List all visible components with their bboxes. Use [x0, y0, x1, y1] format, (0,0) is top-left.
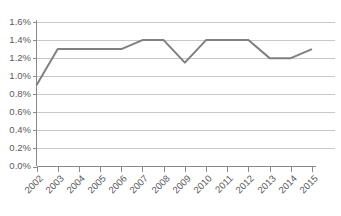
x-axis-tick-label: 2007	[127, 173, 150, 196]
x-axis-tick-marks	[38, 167, 313, 173]
y-axis-tick-label: 1.0%	[9, 70, 31, 81]
y-axis-tick-label: 1.2%	[9, 52, 31, 63]
x-axis-tick-label: 2009	[170, 173, 193, 196]
x-axis-tick-label: 2004	[64, 173, 87, 196]
x-axis-tick-label: 2005	[85, 173, 108, 196]
chart-canvas: 1.6%1.4%1.2%1.0%0.8%0.6%0.4%0.2%0.0% 200…	[0, 0, 341, 216]
x-axis-tick-label: 2012	[233, 173, 256, 196]
x-axis-tick-label: 2008	[149, 173, 172, 196]
x-axis-tick-label: 2010	[191, 173, 214, 196]
x-axis-tick-label: 2002	[22, 173, 45, 196]
y-axis-tick-label: 0.0%	[9, 160, 31, 171]
x-axis-tick-label: 2011	[213, 173, 235, 195]
y-axis-tick-label: 1.6%	[9, 16, 31, 27]
line-chart: 1.6%1.4%1.2%1.0%0.8%0.6%0.4%0.2%0.0% 200…	[0, 0, 341, 216]
x-axis-tick-label: 2006	[106, 173, 129, 196]
data-series-line	[37, 40, 313, 85]
y-axis-tick-label: 0.2%	[9, 142, 31, 153]
x-axis-tick-label: 2015	[297, 173, 320, 196]
x-axis-tick-labels: 2002200320042005200620072008200920102011…	[22, 173, 320, 196]
x-axis-tick-label: 2014	[276, 173, 299, 196]
y-axis-tick-label: 0.6%	[9, 106, 31, 117]
y-axis-tick-labels: 1.6%1.4%1.2%1.0%0.8%0.6%0.4%0.2%0.0%	[9, 16, 36, 172]
x-axis-tick-label: 2013	[255, 173, 278, 196]
y-axis-tick-label: 0.4%	[9, 124, 31, 135]
x-axis-tick-label: 2003	[43, 173, 66, 196]
y-axis-tick-label: 0.8%	[9, 88, 31, 99]
y-axis-tick-label: 1.4%	[9, 34, 31, 45]
gridlines	[37, 23, 336, 149]
